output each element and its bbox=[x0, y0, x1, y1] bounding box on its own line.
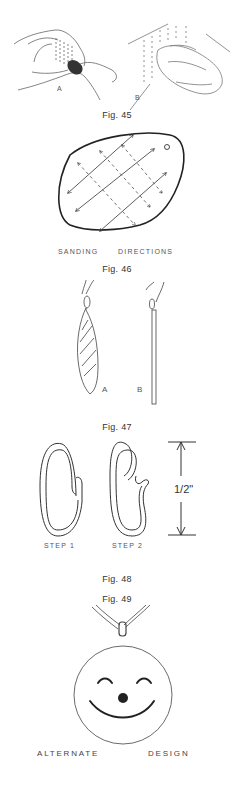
figure-46-illustration: SANDING DIRECTIONS bbox=[0, 125, 234, 245]
sanding-hands-drawing bbox=[0, 0, 234, 120]
figure-49-caption: Fig. 49 bbox=[0, 594, 234, 604]
fig47-label-a: A bbox=[102, 385, 109, 394]
directions-label: DIRECTIONS bbox=[118, 248, 173, 255]
design-label: DESIGN bbox=[148, 749, 189, 758]
figure-47-illustration: A B bbox=[0, 280, 234, 410]
pendant-side-view-drawing bbox=[0, 280, 234, 410]
fig45-label-b: B bbox=[135, 94, 141, 101]
figure-45-caption: Fig. 45 bbox=[0, 110, 234, 120]
figure-45-illustration: A B bbox=[0, 0, 234, 120]
smiley-pendant-drawing bbox=[0, 605, 234, 745]
figure-49-illustration bbox=[0, 605, 234, 745]
figure-46-caption: Fig. 46 bbox=[0, 264, 234, 274]
dimension-label: 1/2" bbox=[174, 483, 193, 495]
fig47-label-b: B bbox=[137, 385, 144, 394]
figure-48-caption: Fig. 48 bbox=[0, 574, 234, 584]
jump-ring-steps-drawing bbox=[0, 436, 234, 556]
fig45-label-a: A bbox=[57, 85, 63, 92]
figure-48-illustration: 1/2" STEP 1 STEP 2 bbox=[0, 436, 234, 556]
sanding-directions-drawing bbox=[0, 125, 234, 245]
step1-label: STEP 1 bbox=[44, 542, 75, 549]
step2-label: STEP 2 bbox=[112, 542, 143, 549]
figure-47-caption: Fig. 47 bbox=[0, 422, 234, 432]
alternate-label: ALTERNATE bbox=[37, 749, 99, 758]
sanding-label: SANDING bbox=[58, 248, 98, 255]
